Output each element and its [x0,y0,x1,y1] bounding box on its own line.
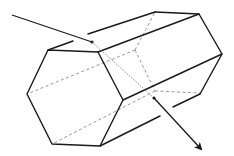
hidden-edges [27,12,200,144]
incident-ray [12,15,92,42]
back-face-edges [155,12,222,94]
exit-ray-arrow [154,98,201,149]
front-hexagon-face [27,50,123,146]
hexagonal-prism-diagram [0,0,234,156]
lateral-edges [48,12,222,146]
light-ray [12,15,201,149]
